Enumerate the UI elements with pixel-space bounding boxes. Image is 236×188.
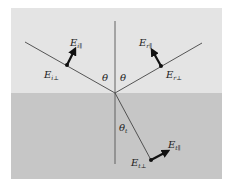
reflected-angle-label: θ [120, 72, 126, 83]
incident-angle-label: θ [102, 72, 108, 83]
lower-medium [11, 93, 222, 179]
upper-medium [11, 8, 222, 94]
refraction-diagram: Ei∥ Ei⊥ Er∥ Er⊥ Et∥ Et⊥ θ θ θt [0, 0, 236, 188]
